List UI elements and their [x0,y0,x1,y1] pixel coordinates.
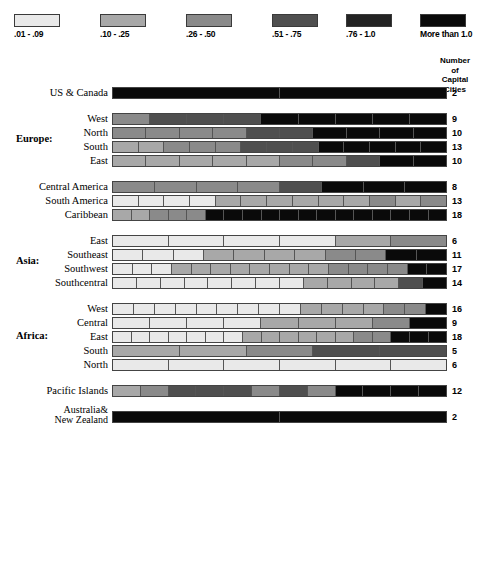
bar-segment [113,182,155,192]
bar-segment [391,386,419,396]
row-bar [112,359,447,371]
bar-segment [113,304,134,314]
column-header-line1: Number [427,56,483,66]
row-label: Southcentral [0,276,108,290]
bar-segment [132,210,151,220]
bar-segment [238,304,259,314]
bar-segment [262,332,281,342]
bar-segment [133,264,153,274]
row-count: 13 [452,194,482,208]
row-count: 10 [452,126,482,140]
bar-segment [243,210,262,220]
bar-segment [336,332,355,342]
bar-segment [399,278,423,288]
bar-segment [414,128,446,138]
bar-segment [132,332,151,342]
bar-segment [293,142,319,152]
row-label: East [0,234,108,248]
bar-segment [113,386,141,396]
bar-segment [417,250,446,260]
row-bar [112,155,447,167]
bar-segment [224,386,252,396]
row-bar [112,411,447,423]
bar-segment [373,332,392,342]
legend: .01 - .09.10 - .25.26 - .50.51 - .75.76 … [0,0,485,52]
row-bar [112,331,447,343]
row-bar [112,385,447,397]
legend-item: .01 - .09 [14,14,60,39]
row-label: Pacific Islands [0,384,108,398]
group-label-africa: Africa: [16,330,48,341]
bar-segment [280,304,301,314]
chart-row: US & Canada2 [0,86,485,100]
bar-segment [146,128,179,138]
row-count: 8 [452,180,482,194]
bar-segment [349,264,369,274]
bar-segment [405,304,426,314]
bar-segment [373,318,410,328]
bar-segment [280,128,313,138]
bar-segment [384,304,405,314]
bar-segment [410,210,429,220]
bar-segment [180,156,213,166]
row-bar [112,345,447,357]
bar-segment [299,332,318,342]
bar-segment [313,156,346,166]
bar-segment [308,386,336,396]
bar-segment [231,264,251,274]
bar-segment [370,196,396,206]
bar-segment [146,156,179,166]
legend-label: .26 - .50 [186,29,232,39]
bar-segment [380,128,413,138]
bar-segment [187,210,206,220]
row-label: Australia&New Zealand [0,405,108,424]
bar-segment [429,210,447,220]
row-count: 9 [452,316,482,330]
bar-segment [113,142,139,152]
bar-segment [174,250,204,260]
bar-segment [197,304,218,314]
bar-segment [113,332,132,342]
bar-segment [204,250,234,260]
bar-segment [265,250,295,260]
bar-segment [113,264,133,274]
bar-segment [347,128,380,138]
bar-segment [280,182,322,192]
bar-segment [180,128,213,138]
bar-segment [113,156,146,166]
bar-segment [388,264,408,274]
row-label: US & Canada [0,86,108,100]
chart-row: West9 [0,112,485,126]
bar-segment [396,142,422,152]
bar-segment [427,264,446,274]
bar-segment [113,318,150,328]
row-bar [112,235,447,247]
row-label: South [0,344,108,358]
chart-row: Southcentral14 [0,276,485,290]
bar-segment [419,386,446,396]
bar-segment [216,196,242,206]
bar-segment [280,88,446,98]
row-bar [112,263,447,275]
row-bar [112,113,447,125]
chart-row: East6 [0,234,485,248]
row-label-line2: New Zealand [0,415,108,425]
bar-segment [190,142,216,152]
bar-segment [139,196,165,206]
bar-segment [247,346,314,356]
bar-segment [309,264,329,274]
legend-swatch [272,14,318,27]
bar-segment [150,114,187,124]
bar-segment [313,128,346,138]
bar-segment [164,142,190,152]
legend-label: .76 - 1.0 [346,29,392,39]
bar-segment [137,278,161,288]
row-bar [112,87,447,99]
chart-row: North6 [0,358,485,372]
bar-segment [224,236,280,246]
bar-segment [364,182,406,192]
row-bar [112,141,447,153]
bar-segment [150,332,169,342]
legend-item: .26 - .50 [186,14,232,39]
bar-segment [213,128,246,138]
